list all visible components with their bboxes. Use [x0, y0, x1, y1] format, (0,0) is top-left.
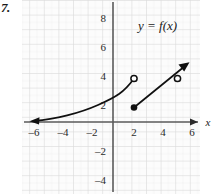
open-circle-endpoint-2-3 — [131, 75, 137, 81]
x-tick-label-2: 2 — [131, 126, 137, 138]
graph-figure: 7. –6 –4 –2 2 4 6 — [0, 0, 222, 194]
x-tick-label-6: 6 — [189, 126, 195, 138]
x-tick-label-neg4: –4 — [57, 126, 70, 138]
function-label: y = f(x) — [136, 18, 177, 33]
y-tick-label-6: 6 — [101, 41, 107, 53]
x-tick-label-neg6: –6 — [28, 126, 41, 138]
x-axis-name: x — [205, 116, 211, 128]
y-tick-label-neg4: –4 — [94, 174, 107, 186]
x-tick-label-4: 4 — [160, 126, 166, 138]
y-tick-label-8: 8 — [101, 12, 107, 24]
filled-dot-endpoint-2-1 — [131, 104, 138, 111]
y-tick-label-4: 4 — [101, 70, 107, 82]
coordinate-plane: –6 –4 –2 2 4 6 8 6 4 2 –2 –4 x y = f(x) — [0, 0, 222, 194]
x-tick-label-neg2: –2 — [86, 126, 98, 138]
open-circle-hole-5-3 — [174, 75, 180, 81]
y-tick-label-neg2: –2 — [94, 145, 106, 157]
